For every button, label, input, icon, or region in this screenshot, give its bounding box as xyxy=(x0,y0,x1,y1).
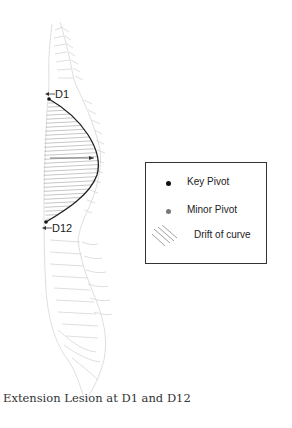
legend: Key Pivot Minor Pivot Drift of curve xyxy=(145,162,267,264)
hatch-icon xyxy=(152,225,178,247)
minor-pivot-icon xyxy=(166,209,171,214)
d1-label: D1 xyxy=(55,88,69,100)
figure-caption: Extension Lesion at D1 and D12 xyxy=(3,391,191,405)
spine-diagram: D1 D12 Key Pivot Minor Pivot Drift of cu… xyxy=(0,0,292,428)
key-pivot-d1 xyxy=(47,97,51,101)
legend-key-pivot: Key Pivot xyxy=(187,176,229,187)
legend-minor-pivot: Minor Pivot xyxy=(187,204,237,215)
legend-drift-of-curve: Drift of curve xyxy=(194,229,251,240)
key-pivot-d12 xyxy=(44,220,48,224)
key-pivot-icon xyxy=(166,181,171,186)
d12-label: D12 xyxy=(52,222,72,234)
